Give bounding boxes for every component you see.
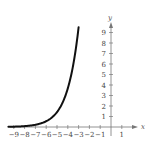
y-tick-label: 3: [102, 92, 106, 100]
chart: x y −9−8−7−6−5−4−3−2−11 123456789: [0, 0, 149, 148]
x-tick-label: −4: [63, 131, 74, 139]
y-axis-label: y: [107, 14, 113, 22]
y-tick-label: 8: [102, 40, 106, 48]
x-tick-label: −3: [73, 131, 83, 139]
x-tick-label: −6: [41, 131, 52, 139]
x-tick-label: −7: [30, 131, 40, 139]
y-tick-label: 1: [102, 113, 106, 121]
x-tick-label: 1: [120, 131, 124, 139]
y-axis-arrow-icon: [109, 22, 113, 28]
data-curve: [8, 27, 78, 127]
x-axis-label: x: [141, 123, 145, 131]
x-tick-label: −2: [84, 131, 94, 139]
x-axis-arrow-icon: [132, 125, 138, 129]
x-tick-label: −5: [52, 131, 62, 139]
y-tick-label: 5: [102, 71, 106, 79]
y-tick-label: 6: [102, 61, 107, 69]
x-tick-label: −1: [95, 131, 105, 139]
y-tick-label: 7: [102, 50, 106, 58]
y-tick-label: 2: [102, 103, 106, 111]
y-tick-label: 4: [102, 82, 107, 90]
y-tick-label: 9: [102, 29, 106, 37]
x-tick-label: −9: [9, 131, 19, 139]
x-tick-label: −8: [19, 131, 29, 139]
